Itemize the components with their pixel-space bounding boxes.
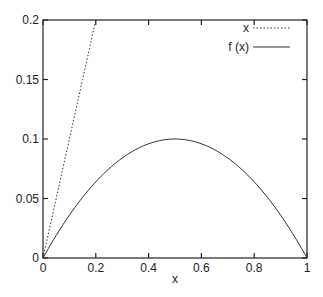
y-tick-label: 0.05	[16, 192, 40, 206]
x-tick-label: 0.6	[193, 261, 210, 275]
legend: xf (x)	[228, 21, 290, 54]
series-line-x	[43, 20, 96, 258]
series-line-fx	[43, 139, 307, 258]
x-axis-ticks: 00.20.40.60.81	[40, 20, 311, 275]
line-chart: 00.20.40.60.81 00.050.10.150.2 x xf (x)	[0, 0, 323, 297]
legend-label: f (x)	[228, 40, 249, 54]
y-axis-ticks: 00.050.10.150.2	[16, 13, 307, 265]
y-tick-label: 0.15	[16, 73, 40, 87]
x-tick-label: 0	[40, 261, 47, 275]
y-tick-label: 0	[32, 251, 39, 265]
legend-label: x	[243, 21, 249, 35]
x-tick-label: 0.8	[246, 261, 263, 275]
x-tick-label: 0.2	[87, 261, 104, 275]
series-layer	[43, 20, 307, 258]
x-axis-label: x	[172, 272, 178, 286]
y-tick-label: 0.1	[22, 132, 39, 146]
x-tick-label: 1	[304, 261, 311, 275]
x-tick-label: 0.4	[140, 261, 157, 275]
y-tick-label: 0.2	[22, 13, 39, 27]
